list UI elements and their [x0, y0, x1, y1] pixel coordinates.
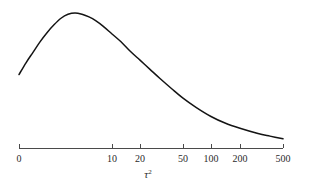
- tick-label: 10: [107, 153, 117, 164]
- axis-title-exponent: 2: [148, 168, 152, 176]
- x-axis-title: τ2: [144, 168, 152, 180]
- tick-label: 0: [17, 153, 22, 164]
- tick-label: 20: [135, 153, 145, 164]
- figure-container: 0102050100200500 τ2: [0, 0, 310, 189]
- tick-label: 500: [276, 153, 291, 164]
- density-plot-svg: 0102050100200500 τ2: [0, 0, 310, 189]
- curve-group: [19, 13, 283, 139]
- x-axis-tick-labels: 0102050100200500: [17, 153, 291, 164]
- x-axis-ticks: [20, 144, 284, 148]
- tick-label: 50: [178, 153, 188, 164]
- tick-label: 200: [233, 153, 248, 164]
- tick-label: 100: [204, 153, 219, 164]
- density-curve: [19, 13, 283, 139]
- axis-group: 0102050100200500: [17, 144, 291, 164]
- axis-title-group: τ2: [144, 168, 152, 180]
